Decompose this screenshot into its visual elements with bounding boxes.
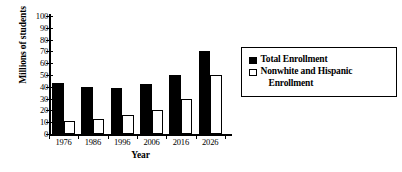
y-tick-mark <box>46 99 53 100</box>
x-axis-title: Year <box>49 150 232 160</box>
bar-nonwhite-hispanic-enrollment <box>210 75 222 134</box>
y-tick-mark <box>46 40 53 41</box>
bar-nonwhite-hispanic-enrollment <box>122 115 134 134</box>
legend-label-continuation: Enrollment <box>261 78 353 90</box>
x-tick-label: 1976 <box>55 137 71 147</box>
legend-label: Total Enrollment <box>261 54 328 66</box>
y-tick-mark <box>46 16 53 17</box>
y-tick-mark <box>46 63 53 64</box>
bar-total-enrollment <box>199 51 211 134</box>
chart-legend: Total EnrollmentNonwhite and HispanicEnr… <box>241 47 397 97</box>
x-axis-tick-labels: 197619861996200620162026 <box>49 137 232 149</box>
bar-total-enrollment <box>81 87 93 134</box>
y-tick-mark <box>46 75 53 76</box>
bar-nonwhite-hispanic-enrollment <box>181 99 193 134</box>
plot-area <box>49 16 225 134</box>
legend-item: Total Enrollment <box>249 54 392 66</box>
bar-total-enrollment <box>140 84 152 134</box>
bar-group-container <box>49 16 225 134</box>
bar-total-enrollment <box>52 83 64 134</box>
x-axis-line <box>49 134 232 136</box>
y-axis-tick-labels: 0102030405060708090100 <box>26 11 48 135</box>
y-tick-mark <box>46 110 53 111</box>
bar-chart-figure: Millions of students 0102030405060708090… <box>0 0 402 172</box>
legend-swatch-hollow-square-icon <box>249 69 257 77</box>
y-tick-mark <box>46 87 53 88</box>
y-tick-mark <box>46 28 53 29</box>
x-tick-label: 2026 <box>202 137 218 147</box>
legend-label: Nonwhite and HispanicEnrollment <box>261 66 353 89</box>
bar-total-enrollment <box>169 75 181 134</box>
x-tick-label: 2016 <box>173 137 189 147</box>
legend-swatch-filled-square-icon <box>249 57 257 65</box>
bar-total-enrollment <box>111 88 123 134</box>
x-tick-label: 1986 <box>85 137 101 147</box>
legend-item: Nonwhite and HispanicEnrollment <box>249 66 392 89</box>
y-tick-mark <box>46 51 53 52</box>
x-tick-label: 1996 <box>114 137 130 147</box>
bar-nonwhite-hispanic-enrollment <box>93 119 105 134</box>
y-tick-mark <box>46 122 53 123</box>
x-tick-label: 2006 <box>143 137 159 147</box>
bar-nonwhite-hispanic-enrollment <box>152 110 164 134</box>
bar-nonwhite-hispanic-enrollment <box>64 121 76 134</box>
legend-entries: Total EnrollmentNonwhite and HispanicEnr… <box>249 54 392 90</box>
